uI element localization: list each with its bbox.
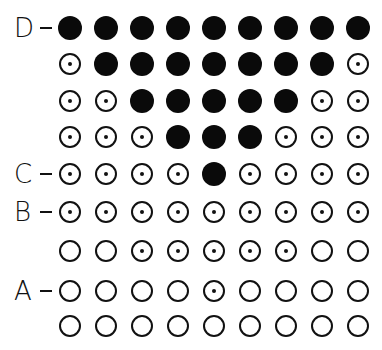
open-circle [239,315,261,337]
label-dash [40,173,52,175]
dotted-circle [59,90,81,112]
open-circle [311,280,333,302]
open-circle [167,315,189,337]
open-circle [95,315,117,337]
open-circle [311,240,333,262]
filled-circle [238,89,262,113]
dotted-circle [203,201,225,223]
dotted-circle [95,201,117,223]
dotted-circle [311,201,333,223]
dotted-circle [347,126,369,148]
filled-circle [130,52,154,76]
dotted-circle [239,163,261,185]
dotted-circle [131,126,153,148]
dotted-circle [167,201,189,223]
filled-circle [238,16,262,40]
filled-circle [274,52,298,76]
dotted-circle [59,126,81,148]
dotted-circle [95,90,117,112]
filled-circle [346,16,370,40]
dotted-circle [347,90,369,112]
label-dash [40,27,52,29]
open-circle [347,280,369,302]
filled-circle [94,52,118,76]
dotted-circle [131,201,153,223]
row-label-b: B [14,199,31,225]
row-label-a: A [14,278,32,304]
open-circle [203,315,225,337]
filled-circle [130,16,154,40]
dotted-circle [131,163,153,185]
filled-circle [310,52,334,76]
dotted-circle [239,240,261,262]
dotted-circle [239,201,261,223]
filled-circle [130,89,154,113]
dotted-circle [275,163,297,185]
dotted-circle [203,240,225,262]
filled-circle [274,89,298,113]
open-circle [347,240,369,262]
open-circle [347,315,369,337]
open-circle [59,240,81,262]
filled-circle [166,125,190,149]
dotted-circle [311,90,333,112]
open-circle [275,315,297,337]
dotted-circle [131,240,153,262]
dotted-circle [311,126,333,148]
dotted-circle [347,201,369,223]
filled-circle [166,16,190,40]
dotted-circle [59,201,81,223]
dotted-circle [311,163,333,185]
dotted-circle [275,201,297,223]
filled-circle [202,89,226,113]
open-circle [275,280,297,302]
filled-circle [58,16,82,40]
label-dash [40,290,52,292]
open-circle [131,315,153,337]
dotted-circle [347,163,369,185]
open-circle [95,280,117,302]
dotted-circle [59,53,81,75]
filled-circle [202,162,226,186]
open-circle [239,280,261,302]
open-circle [311,315,333,337]
dotted-circle [59,163,81,185]
filled-circle [274,16,298,40]
open-circle [131,280,153,302]
dot-grid-diagram: DCBA [0,0,382,350]
row-label-d: D [14,15,34,41]
open-circle [59,315,81,337]
dotted-circle [275,126,297,148]
dotted-circle [347,53,369,75]
filled-circle [166,89,190,113]
dotted-circle [167,163,189,185]
open-circle [167,280,189,302]
open-circle [95,240,117,262]
open-circle [59,280,81,302]
row-label-c: C [14,161,32,187]
filled-circle [238,125,262,149]
dotted-circle [275,240,297,262]
filled-circle [238,52,262,76]
filled-circle [310,16,334,40]
filled-circle [202,16,226,40]
dotted-circle [95,126,117,148]
filled-circle [166,52,190,76]
dotted-circle [95,163,117,185]
dotted-circle [167,240,189,262]
filled-circle [202,52,226,76]
filled-circle [202,125,226,149]
label-dash [40,211,52,213]
dotted-circle [203,280,225,302]
filled-circle [94,16,118,40]
